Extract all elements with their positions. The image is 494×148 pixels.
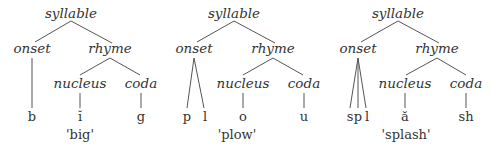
nucleus-segment: ă <box>401 109 409 124</box>
onset-node: onset <box>175 40 213 56</box>
tree-plow: syllable onset rhyme nucleus coda p l o … <box>175 5 320 142</box>
edge-rhyme-nucleus <box>243 58 273 75</box>
onset-segment: b <box>28 109 36 124</box>
tree-big: syllable onset rhyme nucleus coda b ĭ g … <box>13 5 157 142</box>
edge-syllable-onset <box>35 21 71 42</box>
nucleus-node: nucleus <box>217 75 270 91</box>
onset-segment-p: p <box>183 109 191 124</box>
edge-rhyme-nucleus <box>80 58 110 75</box>
onset-segment-p: p <box>354 109 362 124</box>
word-gloss: 'plow' <box>218 127 257 142</box>
tree-splash: syllable onset rhyme nucleus coda s p l … <box>339 5 482 142</box>
coda-node: coda <box>288 75 320 91</box>
nucleus-segment: ĭ <box>78 109 83 124</box>
edge-rhyme-coda <box>437 58 466 75</box>
word-gloss: 'big' <box>66 127 94 142</box>
coda-node: coda <box>125 75 157 91</box>
edge-rhyme-coda <box>110 58 140 75</box>
edge-onset-p <box>187 58 194 108</box>
edge-rhyme-coda <box>273 58 303 75</box>
onset-segment-l: l <box>203 109 207 124</box>
edge-onset-l <box>358 58 366 108</box>
syllable-structure-diagram: syllable onset rhyme nucleus coda b ĭ g … <box>0 0 494 148</box>
nucleus-node: nucleus <box>379 75 432 91</box>
nucleus-segment: o <box>239 109 247 124</box>
rhyme-node: rhyme <box>88 40 132 56</box>
coda-node: coda <box>450 75 482 91</box>
onset-node: onset <box>339 40 377 56</box>
syllable-node: syllable <box>208 5 260 21</box>
coda-segment: u <box>300 109 308 124</box>
edge-syllable-onset <box>197 21 234 42</box>
edge-onset-l <box>194 58 204 108</box>
rhyme-node: rhyme <box>251 40 295 56</box>
syllable-node: syllable <box>45 5 97 21</box>
onset-node: onset <box>13 40 51 56</box>
edge-syllable-onset <box>361 21 398 42</box>
syllable-node: syllable <box>372 5 424 21</box>
rhyme-node: rhyme <box>415 40 459 56</box>
edge-rhyme-nucleus <box>406 58 437 75</box>
edge-onset-s <box>350 58 358 108</box>
nucleus-node: nucleus <box>54 75 107 91</box>
word-gloss: 'splash' <box>381 127 430 142</box>
coda-segment: g <box>137 109 145 124</box>
onset-segment-s: s <box>347 109 354 124</box>
coda-segment: sh <box>458 109 474 124</box>
onset-segment-l: l <box>365 109 369 124</box>
